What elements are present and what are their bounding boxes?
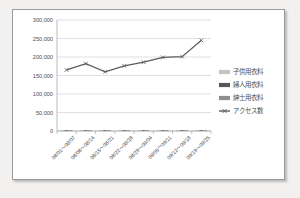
chart-legend: 子供用衣料婦人用衣料紳士用衣料アクセス数 [219,67,264,115]
combo-chart: 300,000250,000200,000150,000100,00050,00… [13,10,286,181]
y-axis-tick-label: 0 [50,128,53,134]
y-axis-tick-label: 200,000 [33,54,53,60]
legend-item-label: 婦人用衣料 [233,80,264,89]
chart-panel: 300,000250,000200,000150,000100,00050,00… [12,9,285,180]
y-axis-tick-label: 150,000 [33,73,53,79]
legend-item[interactable]: 婦人用衣料 [219,80,264,89]
chart-plot-area: 300,000250,000200,000150,000100,00050,00… [13,10,284,179]
legend-item[interactable]: 子供用衣料 [219,67,264,76]
legend-bar-swatch [219,96,230,100]
y-axis-tick-label: 100,000 [33,91,53,97]
x-axis-ticks [57,131,211,134]
y-axis-tick-label: 250,000 [33,36,53,42]
legend-item-label: 子供用衣料 [233,67,264,76]
legend-bar-swatch [219,83,230,87]
gridlines [57,20,211,131]
legend-item-label: 紳士用衣料 [233,93,264,102]
legend-item-label: アクセス数 [233,106,264,115]
legend-item[interactable]: アクセス数 [219,106,264,115]
x-axis-labels: 08/01～08/0708/08～08/1408/15～08/2108/22～0… [50,134,211,160]
line-data-point [199,38,203,42]
y-axis-labels: 300,000250,000200,000150,000100,00050,00… [33,17,53,134]
legend-bar-swatch [219,70,230,74]
line-series-group [65,38,204,73]
legend-item[interactable]: 紳士用衣料 [219,93,264,102]
y-axis-tick-label: 50,000 [36,110,53,116]
y-axis-tick-label: 300,000 [33,17,53,23]
